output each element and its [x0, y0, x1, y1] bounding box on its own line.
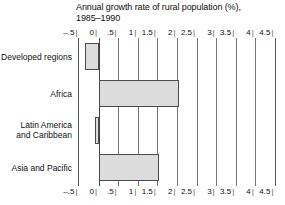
category-label: Developed regions: [0, 52, 72, 62]
x-tick-value: 3: [207, 187, 211, 196]
category-label: Asia and Pacific: [0, 163, 72, 173]
x-tick-value: 1.5: [142, 28, 153, 37]
x-tick-mark: |: [193, 27, 195, 38]
x-tick-value: 1.5: [142, 187, 153, 196]
x-tick-label: –.5|: [63, 27, 79, 38]
x-tick-label: 3.5|: [220, 27, 236, 38]
x-tick-value: 4: [246, 28, 250, 37]
x-tick-mark: |: [134, 27, 136, 38]
x-tick-mark: |: [95, 186, 97, 197]
bar: [85, 43, 99, 70]
bar: [99, 80, 179, 107]
x-tick-label: 2.5|: [181, 27, 197, 38]
x-tick-label: 0|: [90, 186, 99, 197]
x-tick-label: 1.5|: [142, 27, 158, 38]
x-tick-value: 2: [168, 187, 172, 196]
x-tick-label: .5|: [107, 186, 118, 197]
x-tick-value: –.5: [63, 187, 74, 196]
x-tick-label: 2|: [168, 186, 177, 197]
x-tick-value: .5: [107, 187, 114, 196]
x-axis-ticks-bottom: –.5|0|.5|1|1.5|2|2.5|3|3.5|4|4.5|: [0, 186, 285, 197]
chart-title: Annual growth rate of rural population (…: [76, 2, 282, 24]
x-tick-value: 0: [90, 187, 94, 196]
plot-area: [78, 38, 276, 186]
x-tick-value: 1: [129, 187, 133, 196]
x-tick-label: 4|: [246, 186, 255, 197]
x-tick-value: 4.5: [259, 28, 270, 37]
category-label: Latin Americaand Caribbean: [0, 120, 72, 140]
x-tick-value: 2: [168, 28, 172, 37]
x-tick-mark: |: [134, 186, 136, 197]
x-tick-mark: |: [154, 186, 156, 197]
x-tick-mark: |: [232, 27, 234, 38]
x-tick-label: 2|: [168, 27, 177, 38]
bar: [99, 154, 160, 181]
x-tick-mark: |: [271, 186, 273, 197]
x-tick-label: 3|: [207, 27, 216, 38]
bar-band: [79, 112, 275, 149]
x-tick-mark: |: [213, 27, 215, 38]
x-tick-value: 3.5: [220, 187, 231, 196]
x-tick-value: .5: [107, 28, 114, 37]
x-tick-mark: |: [193, 186, 195, 197]
x-tick-mark: |: [75, 27, 77, 38]
chart-container: Annual growth rate of rural population (…: [0, 0, 285, 205]
x-tick-mark: |: [213, 186, 215, 197]
x-tick-mark: |: [154, 27, 156, 38]
x-tick-value: –.5: [63, 28, 74, 37]
x-tick-value: 3: [207, 28, 211, 37]
x-tick-mark: |: [252, 27, 254, 38]
bar-band: [79, 149, 275, 186]
x-tick-mark: |: [115, 186, 117, 197]
x-tick-label: 3|: [207, 186, 216, 197]
category-label: Africa: [0, 89, 72, 99]
bar-band: [79, 38, 275, 75]
x-tick-label: .5|: [107, 27, 118, 38]
chart-title-line2: 1985–1990: [76, 13, 282, 24]
x-tick-label: 4.5|: [259, 27, 275, 38]
x-tick-mark: |: [252, 186, 254, 197]
category-label-line: Asia and Pacific: [12, 163, 72, 173]
x-tick-label: 1.5|: [142, 186, 158, 197]
x-tick-label: 4|: [246, 27, 255, 38]
x-tick-label: 2.5|: [181, 186, 197, 197]
x-tick-mark: |: [75, 186, 77, 197]
x-tick-value: 1: [129, 28, 133, 37]
x-tick-label: –.5|: [63, 186, 79, 197]
x-tick-label: 3.5|: [220, 186, 236, 197]
bar: [95, 117, 99, 144]
x-tick-value: 4.5: [259, 187, 270, 196]
x-tick-mark: |: [173, 186, 175, 197]
x-tick-mark: |: [271, 27, 273, 38]
x-tick-mark: |: [95, 27, 97, 38]
chart-title-line1: Annual growth rate of rural population (…: [76, 2, 241, 12]
category-label-line: and Caribbean: [0, 130, 72, 140]
category-label-line: Africa: [50, 89, 72, 99]
bar-band: [79, 75, 275, 112]
x-tick-value: 2.5: [181, 28, 192, 37]
x-tick-label: 1|: [129, 27, 138, 38]
x-axis-ticks-top: –.5|0|.5|1|1.5|2|2.5|3|3.5|4|4.5|: [0, 27, 285, 38]
x-tick-mark: |: [115, 27, 117, 38]
x-tick-value: 4: [246, 187, 250, 196]
x-tick-label: 1|: [129, 186, 138, 197]
category-label-line: Latin America: [21, 120, 73, 130]
x-tick-mark: |: [232, 186, 234, 197]
x-tick-value: 2.5: [181, 187, 192, 196]
x-tick-value: 3.5: [220, 28, 231, 37]
x-tick-label: 0|: [90, 27, 99, 38]
category-label-line: Developed regions: [1, 52, 72, 62]
x-tick-mark: |: [173, 27, 175, 38]
x-tick-label: 4.5|: [259, 186, 275, 197]
x-tick-value: 0: [90, 28, 94, 37]
